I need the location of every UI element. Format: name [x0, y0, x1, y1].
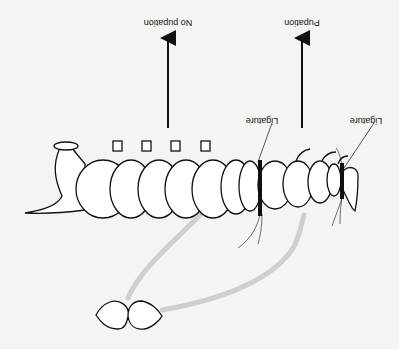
leg-3 — [338, 156, 348, 164]
ligature-experiment-diagram: No pupation Pupation Ligature Ligature — [0, 0, 399, 349]
leg-1 — [296, 149, 310, 161]
tail-segment — [25, 148, 85, 213]
brain — [96, 301, 162, 329]
leg-2 — [322, 152, 336, 161]
ligature-2 — [340, 163, 344, 199]
segment-11 — [327, 164, 341, 196]
head — [342, 168, 358, 211]
tail-spiracle — [54, 142, 78, 150]
pupation-label: Pupation — [284, 18, 320, 28]
spiracle-2 — [142, 141, 151, 151]
ligature-leader-1 — [258, 123, 272, 162]
ligature-label-2: Ligature — [350, 116, 383, 126]
spiracle-1 — [113, 141, 122, 151]
ligature-leader-2 — [344, 123, 374, 168]
ligature-label-1: Ligature — [246, 116, 279, 126]
no-pupation-label: No pupation — [144, 18, 193, 28]
spiracle-3 — [171, 141, 180, 151]
larva — [25, 141, 358, 218]
spiracle-4 — [201, 141, 210, 151]
ligature-1 — [258, 160, 262, 216]
